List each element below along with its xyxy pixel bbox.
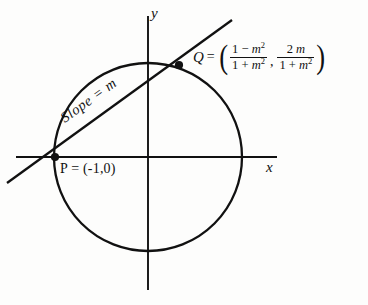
- y-den-variable: m: [299, 58, 308, 72]
- y-coord-denominator: 1 + m2: [277, 57, 314, 72]
- x-coordinate-fraction: 1 − m2 1 + m2: [230, 43, 267, 71]
- open-paren: (: [219, 43, 228, 71]
- equals-sign: =: [207, 50, 215, 64]
- point-q-expression: Q = ( 1 − m2 1 + m2 , 2 m 1 + m2 ): [193, 43, 327, 71]
- x-num-variable: m: [252, 42, 261, 56]
- point-p-label: P = (-1,0): [60, 162, 116, 176]
- point-q-marker: [175, 61, 183, 69]
- coordinate-comma: ,: [270, 55, 274, 71]
- x-coord-denominator: 1 + m2: [230, 57, 267, 72]
- x-axis-label: x: [266, 160, 273, 175]
- y-axis-label: y: [151, 6, 158, 21]
- point-q-name: Q: [193, 50, 204, 65]
- point-p-marker: [51, 153, 59, 161]
- y-num-prefix: 2: [287, 42, 296, 56]
- y-num-variable: m: [296, 42, 305, 56]
- x-num-prefix: 1 −: [232, 42, 252, 56]
- figure-canvas: y x P = (-1,0) Slope = m Q = ( 1 − m2 1 …: [0, 0, 368, 305]
- y-coordinate-fraction: 2 m 1 + m2: [277, 43, 314, 71]
- y-den-prefix: 1 +: [279, 58, 299, 72]
- x-den-variable: m: [252, 58, 261, 72]
- x-den-prefix: 1 +: [232, 58, 252, 72]
- x-num-exponent: 2: [261, 40, 265, 50]
- x-den-exponent: 2: [261, 55, 265, 65]
- y-coord-numerator: 2 m: [285, 43, 307, 57]
- close-paren: ): [317, 43, 326, 71]
- y-den-exponent: 2: [308, 55, 312, 65]
